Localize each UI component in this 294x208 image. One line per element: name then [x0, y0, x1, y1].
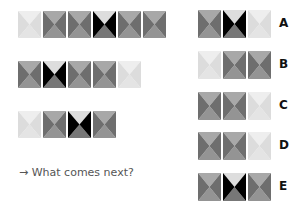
option-c-tiles[interactable]	[198, 92, 271, 120]
option-a-tiles[interactable]	[198, 10, 271, 38]
hourglass-tile-light-icon	[118, 61, 141, 88]
hourglass-tile-light-icon	[18, 11, 41, 38]
option-e-tiles[interactable]	[198, 173, 271, 201]
hourglass-tile-mid-icon	[198, 92, 221, 120]
question-prompt: → What comes next?	[19, 166, 134, 179]
hourglass-tile-mid-icon	[118, 11, 141, 38]
hourglass-tile-light-icon	[248, 92, 271, 120]
hourglass-tile-light-icon	[18, 111, 41, 138]
hourglass-tile-mid-icon	[223, 51, 246, 79]
hourglass-tile-mid-icon	[93, 61, 116, 88]
hourglass-tile-mid-icon	[68, 11, 91, 38]
hourglass-tile-mid-icon	[198, 132, 221, 160]
hourglass-tile-mid-icon	[43, 11, 66, 38]
hourglass-tile-mid-icon	[143, 11, 166, 38]
hourglass-tile-dark-icon	[68, 111, 91, 138]
sequence-row-1	[18, 11, 166, 38]
hourglass-tile-dark-icon	[223, 10, 246, 38]
hourglass-tile-mid-icon	[223, 132, 246, 160]
option-b-tiles[interactable]	[198, 51, 271, 79]
hourglass-tile-light-icon	[248, 132, 271, 160]
hourglass-tile-mid-icon	[223, 92, 246, 120]
sequence-row-3	[18, 111, 116, 138]
option-c-label[interactable]: C	[279, 98, 288, 112]
hourglass-tile-mid-icon	[93, 111, 116, 138]
hourglass-tile-mid-icon	[198, 10, 221, 38]
hourglass-tile-mid-icon	[248, 51, 271, 79]
hourglass-tile-mid-icon	[198, 173, 221, 201]
hourglass-tile-light-icon	[248, 10, 271, 38]
option-a-label[interactable]: A	[279, 16, 288, 30]
hourglass-tile-mid-icon	[18, 61, 41, 88]
option-e-label[interactable]: E	[279, 179, 287, 193]
hourglass-tile-mid-icon	[248, 173, 271, 201]
option-b-label[interactable]: B	[279, 57, 288, 71]
hourglass-tile-mid-icon	[68, 61, 91, 88]
hourglass-tile-dark-icon	[93, 11, 116, 38]
hourglass-tile-dark-icon	[43, 61, 66, 88]
option-d-tiles[interactable]	[198, 132, 271, 160]
option-d-label[interactable]: D	[279, 138, 289, 152]
sequence-row-2	[18, 61, 141, 88]
hourglass-tile-dark-icon	[223, 173, 246, 201]
hourglass-tile-mid-icon	[43, 111, 66, 138]
hourglass-tile-light-icon	[198, 51, 221, 79]
